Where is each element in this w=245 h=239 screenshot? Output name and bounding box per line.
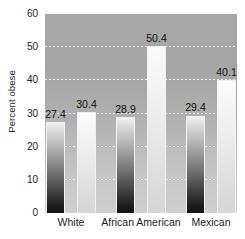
value-label-white-series-2: 30.4 [76, 99, 96, 110]
bar-african-american-series-2 [147, 46, 166, 213]
x-axis-label-african-american: African American [101, 216, 180, 228]
x-axis-label-mexican: Mexican [191, 216, 230, 228]
y-axis-tick-40: 40 [27, 75, 38, 85]
plot-area [45, 14, 237, 213]
y-axis-tick-50: 50 [27, 42, 38, 52]
y-axis-tick-10: 10 [27, 175, 38, 185]
gridline-10 [45, 179, 237, 180]
bar-mexican-series-2 [217, 80, 236, 213]
gridline-60 [45, 13, 237, 14]
gridline-20 [45, 146, 237, 147]
y-axis-tick-labels: 6050403020100 [0, 0, 45, 239]
gridline-40 [45, 79, 237, 80]
bar-mexican-series-1 [186, 116, 205, 214]
gridline-30 [45, 113, 237, 114]
bar-white-series-1 [46, 122, 65, 213]
y-axis-tick-0: 0 [32, 208, 38, 218]
bar-african-american-series-1 [116, 117, 135, 213]
x-axis-label-white: White [58, 216, 85, 228]
bar-chart: Percent obese 6050403020100 27.430.428.9… [0, 0, 245, 239]
gridline-50 [45, 46, 237, 47]
value-label-mexican-series-2: 40.1 [216, 67, 236, 78]
y-axis-tick-20: 20 [27, 142, 38, 152]
y-axis-tick-60: 60 [27, 9, 38, 19]
bar-white-series-2 [77, 112, 96, 213]
value-label-mexican-series-1: 29.4 [185, 102, 205, 113]
value-label-white-series-1: 27.4 [45, 109, 65, 120]
value-label-african-american-series-2: 50.4 [146, 33, 166, 44]
x-axis-category-labels: WhiteAfrican AmericanMexican [45, 216, 237, 236]
y-axis-tick-30: 30 [27, 109, 38, 119]
value-label-african-american-series-1: 28.9 [115, 104, 135, 115]
